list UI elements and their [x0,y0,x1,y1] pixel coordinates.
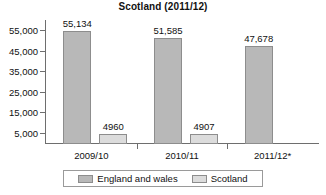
y-axis-label: 45,000 [0,45,38,56]
x-axis-tick [137,143,138,149]
x-axis-label: 2011/12* [254,150,291,161]
bar-value-label: 51,585 [153,25,182,36]
y-axis-label: 5,000 [0,127,38,138]
legend-swatch-england-and-wales [78,175,93,183]
bar-value-label: 55,134 [63,18,92,29]
legend-swatch-scotland [192,175,207,183]
x-axis-label: 2009/10 [74,150,108,161]
bar-chart: Scotland (2011/12) 5,00015,00025,00035,0… [0,0,326,195]
y-axis-label: 15,000 [0,107,38,118]
y-axis-label: 35,000 [0,66,38,77]
legend-item-england-and-wales: England and wales [78,173,177,184]
legend-label-england-and-wales: England and wales [97,173,177,184]
x-axis-tick [227,143,228,149]
legend-item-scotland: Scotland [192,173,248,184]
bar-england-and-wales [245,46,273,144]
chart-legend: England and wales Scotland [63,170,263,187]
y-axis-label: 55,000 [0,25,38,36]
x-axis-label: 2010/11 [165,150,199,161]
bar-england-and-wales [154,38,182,144]
bar-value-label: 4960 [103,121,124,132]
bar-scotland [190,134,218,144]
y-axis-label: 25,000 [0,86,38,97]
bar-england-and-wales [63,31,91,144]
bar-value-label: 47,678 [244,33,273,44]
bar-scotland [99,134,127,144]
legend-label-scotland: Scotland [211,173,248,184]
plot-area: 55,134496051,585490747,678 [46,20,318,144]
bar-value-label: 4907 [193,121,214,132]
chart-title: Scotland (2011/12) [0,1,326,12]
